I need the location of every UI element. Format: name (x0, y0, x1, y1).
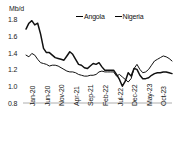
series-line-angola (26, 21, 172, 87)
x-axis-tick-Jul-22: Jul-22 (117, 88, 124, 106)
x-axis-tick-Jun-20: Jun-20 (44, 86, 51, 106)
x-axis-tick-Sep-21: Sep-21 (87, 85, 94, 106)
x-axis-tick-Jan-20: Jan-20 (29, 86, 36, 106)
series-line-nigeria (26, 53, 172, 82)
plot-area (0, 0, 174, 142)
x-axis-tick-Apr-21: Apr-21 (73, 86, 80, 106)
x-axis-tick-Feb-22: Feb-22 (102, 85, 109, 106)
x-axis-tick-May-23: May-23 (146, 84, 153, 106)
x-axis-tick-Oct-23: Oct-23 (160, 86, 167, 106)
line-chart: Mb/d 0.81.01.21.41.61.8 Angola Nigeria J… (0, 0, 174, 142)
x-axis-tick-Dec-22: Dec-22 (131, 85, 138, 106)
x-axis-tick-Nov-20: Nov-20 (58, 85, 65, 106)
